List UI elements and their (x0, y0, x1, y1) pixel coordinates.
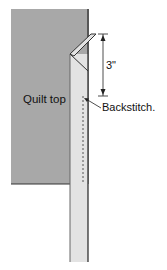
binding-diagram (0, 0, 167, 270)
backstitch-label: Backstitch. (102, 101, 155, 113)
measurement-label: 3" (106, 59, 116, 71)
binding-strip (70, 54, 88, 262)
quilt-top-label: Quilt top (23, 93, 66, 105)
